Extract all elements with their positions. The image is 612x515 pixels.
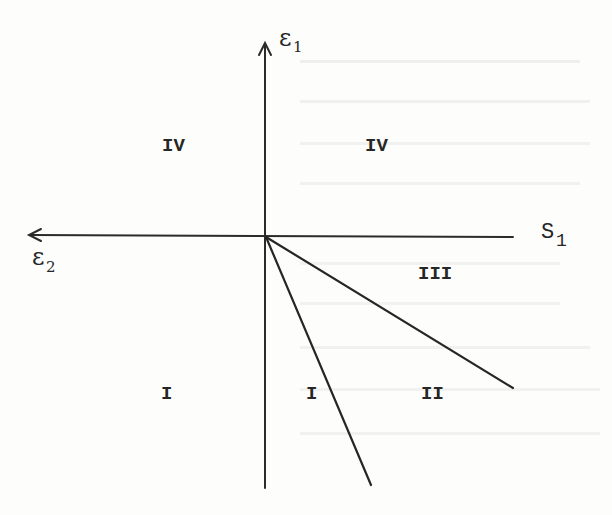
region-label-i-left: I xyxy=(161,383,172,405)
region-label-ii: II xyxy=(421,383,444,405)
ghost-line xyxy=(300,432,600,435)
phase-diagram: ε 1 ε 2 S 1 IV IV III I I II xyxy=(0,0,612,515)
epsilon2-symbol: ε xyxy=(32,243,44,271)
s1-symbol: S xyxy=(541,220,554,245)
ghost-line xyxy=(300,60,580,63)
region-label-iv-left: IV xyxy=(162,135,185,157)
bleed-through-texture xyxy=(300,60,600,435)
epsilon2-label: ε 2 xyxy=(32,243,56,276)
epsilon2-subscript: 2 xyxy=(46,258,56,276)
shallow-ray xyxy=(266,237,513,388)
epsilon1-label: ε 1 xyxy=(279,24,303,56)
region-label-iii: III xyxy=(418,263,452,285)
region-label-i-middle: I xyxy=(306,383,317,405)
region-label-iv-right: IV xyxy=(365,135,388,157)
ghost-line xyxy=(300,100,590,103)
ghost-line xyxy=(300,142,590,145)
s1-label: S 1 xyxy=(541,220,567,251)
diagram-canvas: ε 1 ε 2 S 1 IV IV III I I II xyxy=(0,0,612,515)
epsilon1-subscript: 1 xyxy=(293,38,303,56)
horizontal-axis xyxy=(30,235,513,237)
steep-ray xyxy=(266,237,371,485)
epsilon1-symbol: ε xyxy=(279,24,291,52)
ghost-line xyxy=(300,388,600,391)
ghost-line xyxy=(300,302,560,305)
ghost-line xyxy=(300,182,580,185)
s1-subscript: 1 xyxy=(556,231,567,251)
